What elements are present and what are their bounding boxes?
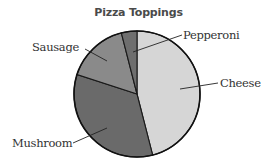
chart-title: Pizza Toppings [0,6,277,19]
label-mushroom: Mushroom [12,136,72,150]
label-pepperoni: Pepperoni [183,28,239,42]
label-cheese: Cheese [220,76,261,90]
pie-slices [74,31,200,157]
label-sausage: Sausage [32,40,79,54]
